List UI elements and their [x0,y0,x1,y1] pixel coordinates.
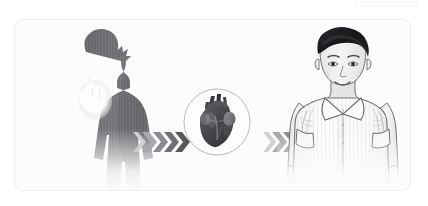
decorative-dashed-rule [356,2,420,3]
heart-badge [181,86,253,158]
decorative-dashed-rule-2 [356,5,420,6]
healthy-figure [277,25,409,190]
illustration-stage [15,20,410,190]
illustration-card [14,19,411,191]
silhouette-figure [45,25,155,190]
